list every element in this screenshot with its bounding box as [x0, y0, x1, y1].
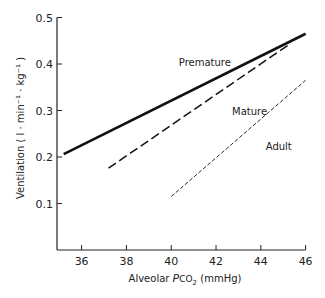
series-label-adult: Adult: [266, 141, 292, 152]
y-tick-label: 0.2: [36, 151, 54, 164]
x-tick-label: 38: [119, 255, 133, 268]
x-tick-label: 46: [299, 255, 313, 268]
x-axis-title: Alveolar PCO2 (mmHg): [129, 272, 242, 287]
x-tick-label: 36: [75, 255, 89, 268]
y-tick-label: 0.5: [36, 12, 54, 25]
series-labels: PrematureMatureAdult: [179, 57, 292, 152]
y-tick-label: 0.1: [36, 198, 54, 211]
x-tick-label: 44: [254, 255, 268, 268]
x-tick-label: 40: [164, 255, 178, 268]
y-tick-label: 0.4: [36, 58, 54, 71]
series-label-mature: Mature: [232, 106, 267, 117]
series-label-premature: Premature: [179, 57, 231, 68]
ventilation-chart: 0.10.20.30.40.5363840424446 PrematureMat…: [0, 0, 325, 298]
x-tick-label: 42: [209, 255, 223, 268]
y-axis-title: Ventilation ( l · min⁻¹ · kg⁻¹ ): [15, 57, 26, 199]
series-line-adult: [171, 80, 305, 196]
y-tick-label: 0.3: [36, 105, 54, 118]
series-line-premature: [64, 34, 306, 154]
